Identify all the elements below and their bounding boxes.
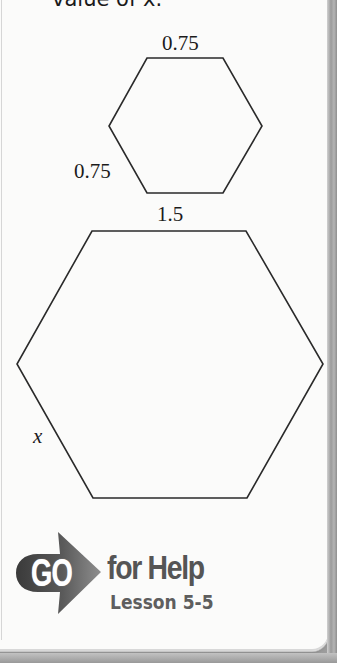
small-hexagon-top-label: 0.75 [162,33,199,54]
small-hexagon [109,58,262,193]
large-hexagon-side-label: x [33,426,42,447]
go-label: GO [31,554,72,592]
small-hexagon-side-label: 0.75 [74,161,111,182]
textbook-page: value of x. 0.75 0.75 1.5 x GO for Help … [0,0,337,663]
large-hexagon-top-label: 1.5 [157,204,183,225]
go-for-help-title[interactable]: for Help [107,551,204,584]
large-hexagon [17,231,323,498]
go-for-help-lesson-link[interactable]: Lesson 5-5 [110,593,214,612]
